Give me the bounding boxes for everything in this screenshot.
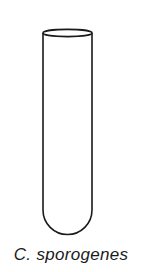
tube-rim (43, 29, 92, 36)
test-tube-icon (0, 0, 142, 240)
tube-body (43, 33, 92, 234)
organism-label: C. sporogenes (0, 244, 142, 266)
